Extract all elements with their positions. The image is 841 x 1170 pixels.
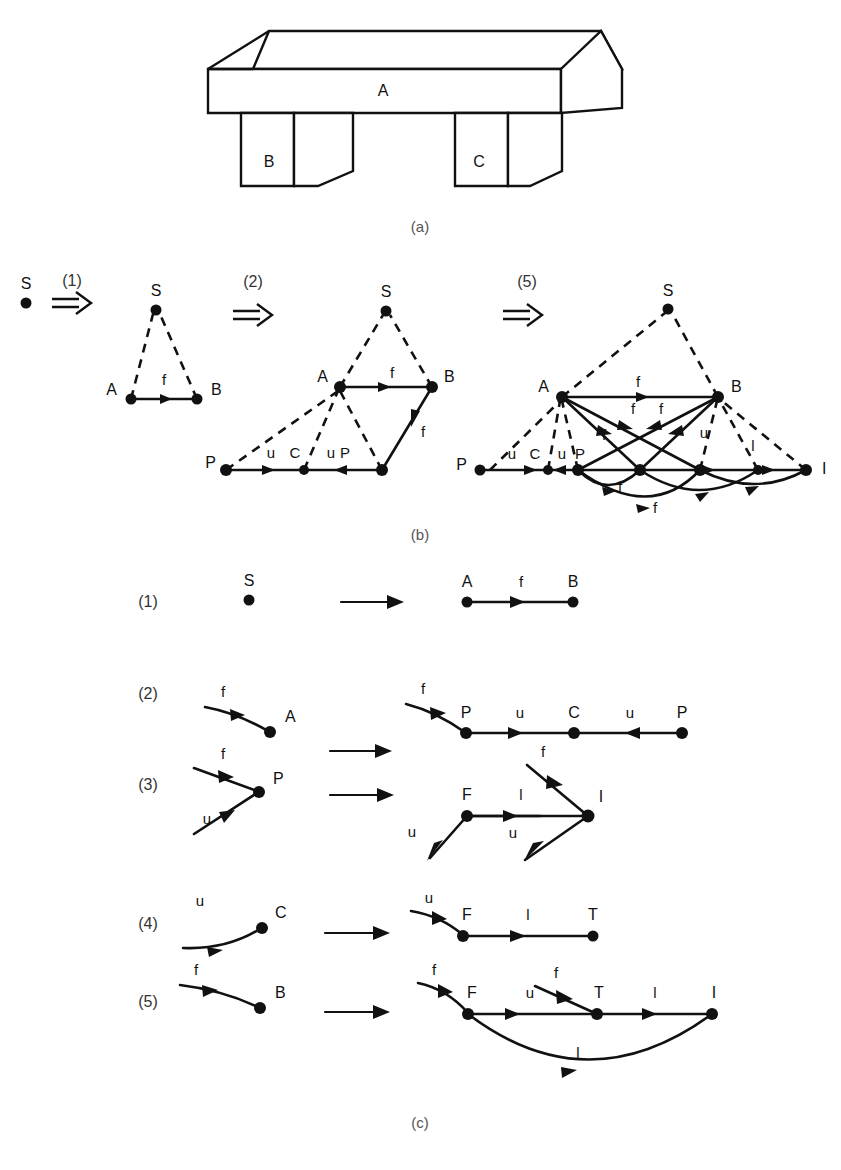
rule-2-rhs-label-C: C — [568, 704, 580, 721]
rule-2-rhs-label-P1: P — [461, 704, 472, 721]
figure-root: A B C (a) S (1) S A B f — [0, 0, 841, 1170]
g3-label-I: I — [822, 460, 826, 477]
rule-2-rhs-node-C — [568, 727, 580, 739]
rule-5-number: (5) — [138, 993, 158, 1010]
g3-label-S: S — [663, 282, 674, 299]
g3-node-mid1 — [634, 464, 646, 476]
rule-3-rhs-edge-label-u-out: u — [408, 823, 416, 840]
panel-a-caption: (a) — [411, 218, 429, 235]
rule-1-rhs-node-B — [568, 597, 579, 608]
g1-node-S — [151, 305, 162, 316]
rule-5-lhs-node-B — [254, 1002, 266, 1014]
rule-3-rhs-edge-label-u-down: u — [509, 824, 517, 841]
rule-3-number: (3) — [138, 776, 158, 793]
g1-label-B: B — [211, 381, 222, 398]
rule-4-rhs-label-T: T — [588, 906, 598, 923]
leg-c-front-face — [455, 113, 508, 186]
rule-5-lhs-label-B: B — [275, 984, 286, 1001]
panel-b-step-5-label: (5) — [517, 273, 537, 290]
panel-a-label-B: B — [264, 153, 275, 170]
g1-node-A — [126, 394, 137, 405]
rule-1-rhs-node-A — [462, 597, 473, 608]
rule-3-rhs-node-F — [461, 810, 473, 822]
g0-node-S — [21, 298, 32, 309]
g3-bottom-label-C: C — [530, 445, 541, 462]
rule-5-rhs-edge-label-l: l — [653, 984, 656, 1001]
rule-3-rhs-node-I — [582, 810, 595, 823]
g3-label-A: A — [538, 378, 549, 395]
rule-2-rhs-node-P1 — [460, 727, 472, 739]
g2-node-P2 — [376, 464, 388, 476]
rule-3-rhs-label-I: I — [599, 788, 603, 805]
g3-node-I — [800, 464, 812, 476]
rule-5-rhs-node-F — [462, 1008, 474, 1020]
rule-2-rhs-edge-label-u2: u — [626, 704, 634, 721]
g3-bottom-label-u-2: u — [558, 445, 566, 462]
g2-node-A — [334, 381, 346, 393]
panel-b-step-2-label: (2) — [243, 273, 263, 290]
panel-b-step-1-label: (1) — [62, 272, 82, 289]
g1-node-B — [192, 394, 203, 405]
rule-3-rhs-edge-label-l: l — [519, 786, 522, 803]
rule-4-lhs-edge-label-u: u — [196, 892, 204, 909]
rule-2-lhs-label-A: A — [285, 708, 296, 725]
rule-4-rhs-edge-label-u: u — [425, 889, 433, 906]
panel-c-caption: (c) — [411, 1114, 429, 1131]
g3-node-far-left — [475, 465, 486, 476]
g2-label-P1: P — [205, 454, 216, 471]
g3-label-P-left: P — [456, 456, 467, 473]
rule-2-number: (2) — [138, 685, 158, 702]
rule-2-rhs-edge-label-u1: u — [516, 704, 524, 721]
g1-label-A: A — [106, 381, 117, 398]
g2-bottom-label-u-left: u — [267, 444, 275, 461]
rule-4-number: (4) — [138, 915, 158, 932]
rule-1-number: (1) — [138, 593, 158, 610]
g3-node-B — [712, 391, 724, 403]
panel-b-graph-0: S — [21, 275, 32, 309]
g3-node-S — [663, 304, 674, 315]
g2-label-S: S — [381, 283, 392, 300]
g3-bottom-label-u-1: u — [508, 445, 516, 462]
panel-b-caption: (b) — [411, 526, 429, 543]
rule-1-rhs-label-B: B — [568, 573, 579, 590]
g3-node-C — [543, 465, 553, 475]
rule-2-lhs-node-A — [264, 726, 276, 738]
g2-bottom-label-u-right: u — [327, 444, 335, 461]
g3-edge-label-u-right: u — [700, 424, 708, 441]
g2-label-B: B — [444, 368, 455, 385]
rule-1-lhs-node-S — [244, 595, 255, 606]
g2-label-A: A — [317, 368, 328, 385]
g3-node-A — [556, 391, 568, 403]
g2-bottom-label-P: P — [340, 444, 350, 461]
panel-a-label-C: C — [473, 153, 485, 170]
rule-5-rhs-edge-label-l-curve: l — [576, 1044, 579, 1061]
g2-node-B — [426, 381, 438, 393]
rule-4-lhs-node-C — [256, 922, 268, 934]
figure-canvas: A B C (a) S (1) S A B f — [0, 0, 841, 1170]
rule-1-rhs-label-A: A — [462, 573, 473, 590]
panel-a-label-A: A — [378, 82, 389, 99]
rule-4-rhs-node-T — [588, 931, 599, 942]
g3-node-mid3 — [753, 465, 763, 475]
rule-2-rhs-label-P2: P — [677, 704, 688, 721]
rule-3-lhs-edge-label-u: u — [203, 810, 211, 827]
g3-edge-label-l-right: l — [751, 437, 754, 454]
leg-c-side-face — [508, 113, 562, 186]
g2-node-C — [299, 465, 309, 475]
rule-5-rhs-label-F: F — [467, 984, 477, 1001]
g2-bottom-label-C: C — [290, 444, 301, 461]
g3-node-mid2 — [694, 464, 706, 476]
rule-1-lhs-label-S: S — [244, 572, 255, 589]
g0-node-label-S: S — [21, 275, 32, 292]
rule-5-rhs-node-I — [706, 1008, 718, 1020]
rule-3-rhs-label-F: F — [462, 786, 472, 803]
rule-3-lhs-node-P — [253, 786, 265, 798]
leg-b-front-face — [241, 113, 294, 186]
rule-4-lhs-label-C: C — [275, 904, 287, 921]
rule-5-rhs-label-I: I — [712, 984, 716, 1001]
rule-4-rhs-edge-label-l: l — [526, 906, 529, 923]
rule-4-rhs-node-F — [457, 930, 469, 942]
g2-node-S — [381, 306, 392, 317]
rule-3-lhs-label-P: P — [273, 770, 284, 787]
leg-b-side-face — [294, 113, 353, 186]
